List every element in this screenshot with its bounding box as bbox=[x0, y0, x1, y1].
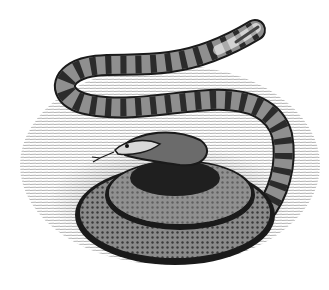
eye-icon bbox=[125, 144, 129, 148]
snake-illustration bbox=[0, 0, 329, 290]
